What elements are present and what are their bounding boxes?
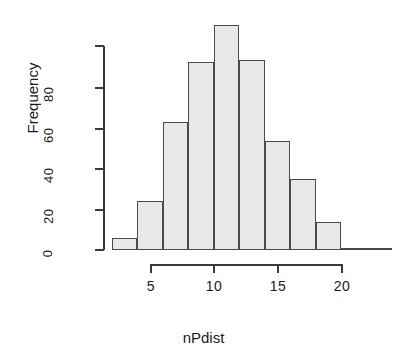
x-axis: 5 10 15 20 nPdist <box>0 0 407 363</box>
x-axis-tick-label-20: 20 <box>334 278 351 294</box>
x-axis-tick-15 <box>277 264 279 273</box>
histogram-plot: 80 60 40 20 0 Frequency 5 10 15 20 nPdis… <box>0 0 407 363</box>
x-axis-line <box>150 264 342 266</box>
x-axis-tick-label-15: 15 <box>270 278 287 294</box>
x-axis-tick-label-10: 10 <box>206 278 223 294</box>
x-axis-title: nPdist <box>0 330 407 346</box>
x-axis-tick-label-5: 5 <box>147 278 155 294</box>
x-axis-tick-10 <box>213 264 215 273</box>
x-axis-tick-5 <box>150 264 152 273</box>
x-axis-tick-20 <box>341 264 343 273</box>
